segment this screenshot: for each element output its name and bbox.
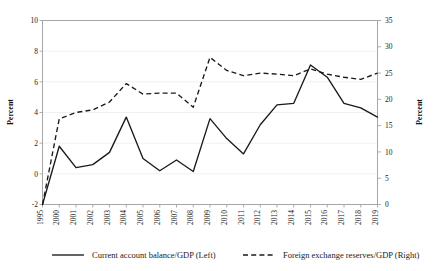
x-tick-label: 2011 bbox=[237, 210, 246, 225]
x-tick-label: 2010 bbox=[220, 210, 229, 225]
chart-background bbox=[0, 0, 433, 271]
x-tick-label: 1995 bbox=[36, 210, 45, 225]
x-tick-label: 2015 bbox=[304, 210, 313, 225]
x-tick-label: 2007 bbox=[170, 210, 179, 225]
chart-canvas: -20246810 05101520253035 199520002001200… bbox=[0, 0, 433, 271]
x-tick-label: 2006 bbox=[153, 210, 162, 225]
left-tick-label: 6 bbox=[34, 78, 38, 87]
right-tick-label: 0 bbox=[385, 200, 389, 209]
right-tick-label: 15 bbox=[385, 121, 393, 130]
left-tick-label: -2 bbox=[32, 200, 38, 209]
legend-label-1: Current account balance/GDP (Left) bbox=[92, 250, 216, 260]
x-tick-label: 2001 bbox=[69, 210, 78, 225]
x-tick-label: 2014 bbox=[287, 210, 296, 225]
x-tick-label: 2004 bbox=[119, 210, 128, 225]
left-tick-label: 0 bbox=[34, 170, 38, 179]
left-tick-label: 10 bbox=[31, 16, 39, 25]
left-tick-label: 8 bbox=[34, 47, 38, 56]
x-tick-label: 2016 bbox=[320, 210, 329, 225]
left-axis-title: Percent bbox=[6, 99, 15, 125]
x-tick-label: 2009 bbox=[203, 210, 212, 225]
right-tick-label: 20 bbox=[385, 95, 393, 104]
x-tick-label: 2008 bbox=[186, 210, 195, 225]
x-tick-label: 2018 bbox=[354, 210, 363, 225]
x-tick-label: 2013 bbox=[270, 210, 279, 225]
right-tick-label: 30 bbox=[385, 42, 393, 51]
left-tick-label: 2 bbox=[34, 139, 38, 148]
right-tick-label: 25 bbox=[385, 69, 393, 78]
legend-label-2: Foreign exchange reserves/GDP (Right) bbox=[283, 250, 420, 260]
dual-axis-line-chart: -20246810 05101520253035 199520002001200… bbox=[0, 0, 433, 271]
left-tick-label: 4 bbox=[34, 108, 38, 117]
x-tick-label: 2019 bbox=[371, 210, 380, 225]
x-tick-label: 2003 bbox=[103, 210, 112, 225]
x-tick-label: 2017 bbox=[337, 210, 346, 225]
right-axis-title: Percent bbox=[415, 99, 424, 125]
right-tick-label: 10 bbox=[385, 148, 393, 157]
x-tick-label: 2002 bbox=[86, 210, 95, 225]
right-tick-label: 35 bbox=[385, 16, 393, 25]
x-tick-label: 2005 bbox=[136, 210, 145, 225]
x-tick-label: 2000 bbox=[52, 210, 61, 225]
x-tick-label: 2012 bbox=[253, 210, 262, 225]
right-tick-label: 5 bbox=[385, 174, 389, 183]
